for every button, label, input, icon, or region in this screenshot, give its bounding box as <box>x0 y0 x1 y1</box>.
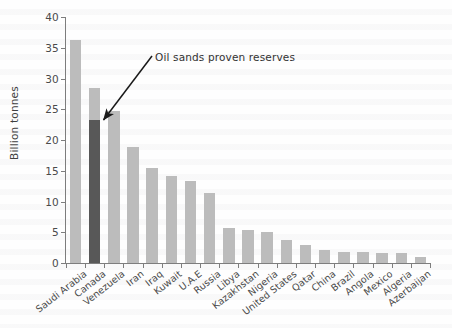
bar <box>89 88 100 263</box>
y-tick-mark <box>61 109 66 110</box>
bar <box>185 181 196 263</box>
y-axis-title-text: Billion tonnes <box>8 86 20 160</box>
y-tick-mark <box>61 48 66 49</box>
chart-figure: Billion tonnes 0510152025303540 Saudi Ar… <box>0 0 452 328</box>
x-axis-labels: Saudi ArabiaCanadaVenezuelaIranIraqKuwai… <box>66 268 430 328</box>
bar <box>338 252 349 263</box>
bar-highlight-segment <box>89 120 100 263</box>
bar <box>108 111 119 263</box>
bar <box>357 252 368 263</box>
y-tick-label: 30 <box>45 73 59 85</box>
x-tick-mark <box>430 263 431 268</box>
y-tick-label: 25 <box>45 103 59 115</box>
bar <box>242 230 253 263</box>
y-tick-label: 40 <box>45 11 59 23</box>
y-axis-title: Billion tonnes <box>6 0 22 246</box>
bar <box>70 40 81 263</box>
bar <box>376 253 387 263</box>
y-tick-label: 35 <box>45 42 59 54</box>
bar <box>300 245 311 263</box>
y-tick-mark <box>61 171 66 172</box>
y-tick-label: 5 <box>52 226 59 238</box>
y-tick-mark <box>61 202 66 203</box>
bar <box>319 250 330 263</box>
x-axis-line <box>65 263 430 264</box>
bar <box>281 240 292 263</box>
y-tick-label: 0 <box>52 257 59 269</box>
bar <box>261 232 272 263</box>
y-tick-mark <box>61 17 66 18</box>
y-tick-label: 10 <box>45 196 59 208</box>
bar <box>415 257 426 263</box>
y-tick-mark <box>61 79 66 80</box>
y-tick-mark <box>61 140 66 141</box>
bar <box>127 147 138 263</box>
y-tick-mark <box>61 232 66 233</box>
y-tick-label: 20 <box>45 134 59 146</box>
x-tick-label: Iran <box>124 268 146 288</box>
bar <box>396 253 407 263</box>
y-tick-label: 15 <box>45 165 59 177</box>
bar <box>223 228 234 263</box>
bar <box>146 168 157 263</box>
bar <box>166 176 177 263</box>
bar <box>204 193 215 263</box>
annotation-label: Oil sands proven reserves <box>155 51 295 63</box>
